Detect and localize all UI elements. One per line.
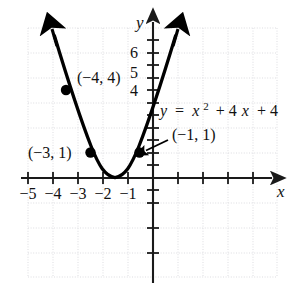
point-neg4-4 (61, 85, 71, 95)
equation-plus-4: + 4 (216, 102, 237, 119)
equation-x-var-2: x (241, 102, 249, 119)
x-tick-label-neg4: −4 (44, 185, 61, 202)
equation-plus-4-const: + 4 (257, 102, 278, 119)
point-label-neg3-1: (−3, 1) (28, 144, 72, 162)
equation-equals: = (175, 102, 184, 119)
point-label-neg4-4: (−4, 4) (77, 69, 121, 87)
x-tick-label-neg5: −5 (19, 185, 36, 202)
equation-lhs: y (158, 102, 168, 120)
x-tick-label-neg1: −1 (119, 185, 136, 202)
y-axis-label: y (134, 13, 144, 32)
equation-x-var: x (191, 102, 199, 119)
figure-container: y x 6 5 4 −5 −4 −3 −2 −1 (−4, 4) (−3, 1)… (0, 0, 295, 291)
equation-exponent: 2 (203, 100, 209, 112)
point-neg1-1 (134, 147, 144, 157)
point-label-neg1-1: (−1, 1) (172, 126, 216, 144)
point-neg3-1 (85, 147, 95, 157)
y-tick-label-5: 5 (130, 64, 138, 81)
y-tick-label-6: 6 (130, 44, 138, 61)
x-axis-label: x (276, 182, 285, 201)
x-tick-label-neg3: −3 (69, 185, 86, 202)
coordinate-plane-graph: y x 6 5 4 −5 −4 −3 −2 −1 (−4, 4) (−3, 1)… (0, 0, 295, 291)
x-tick-label-neg2: −2 (94, 185, 111, 202)
y-tick-label-4: 4 (130, 82, 138, 99)
